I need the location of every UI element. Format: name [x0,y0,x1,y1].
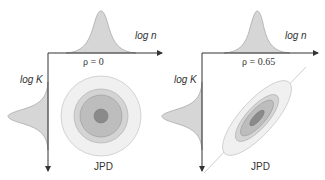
y-axis-label: log K [174,74,197,85]
marginal-log-k-curve [162,82,202,150]
jpd-label: JPD [94,161,113,172]
jpd-label: JPD [251,161,270,172]
marginal-log-n-curve [224,11,290,53]
marginal-log-n-curve [66,11,136,53]
marginal-log-k-curve [8,82,48,150]
y-axis-label: log K [20,74,43,85]
diagram-canvas [0,0,325,180]
jpd-contours [212,71,302,165]
x-axis-label: log n [285,30,307,41]
x-axis-label: log n [135,30,157,41]
jpd-contours [61,76,141,156]
correlation-label: ρ = 0 [83,56,104,67]
correlation-label: ρ = 0.65 [242,56,275,67]
